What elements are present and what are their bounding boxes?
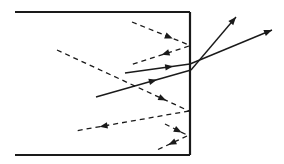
reflect-top-reflected-line (130, 46, 189, 65)
refract-upper-exit-line (190, 30, 272, 64)
diagram-canvas (0, 0, 284, 164)
arrow-icon (173, 126, 182, 132)
arrow-icon (168, 138, 177, 144)
reflect-mid-reflected-line (75, 111, 189, 131)
ray-reflection-refraction-diagram (0, 0, 284, 164)
arrow-icon (162, 49, 171, 55)
reflect-mid-incident-line (57, 50, 189, 111)
arrow-icon (263, 30, 272, 36)
arrow-icon (100, 122, 108, 128)
internally-reflected-rays (57, 22, 189, 150)
refract-lower-exit-line (191, 17, 236, 70)
arrow-icon (164, 32, 173, 38)
arrow-icon (158, 94, 167, 100)
reflect-top-incident-line (132, 22, 189, 45)
refract-upper-incident-line (125, 64, 190, 73)
refracted-rays (96, 17, 272, 97)
open-box (15, 12, 190, 155)
arrow-icon (165, 64, 173, 70)
arrow-icon (148, 79, 157, 85)
